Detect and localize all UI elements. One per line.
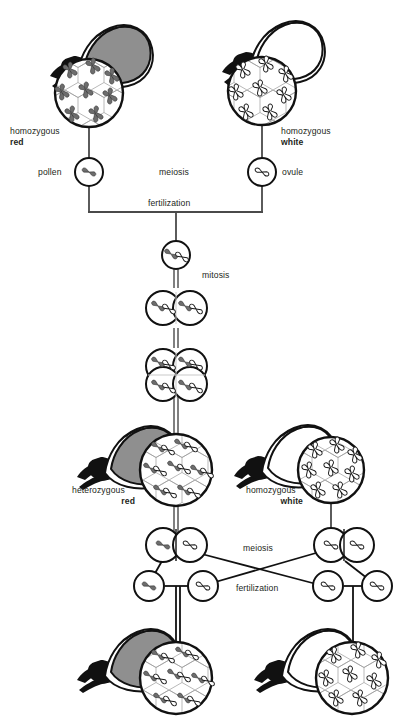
genetics-cross-diagram: homozygous red homozygous white pollen o… bbox=[0, 0, 400, 718]
label-meiosis-top: meiosis bbox=[159, 167, 189, 178]
tissue-disc-f2-red bbox=[140, 642, 215, 714]
diagram-canvas bbox=[0, 0, 400, 718]
f2-red-plant bbox=[77, 629, 215, 714]
meiosis-pair-right bbox=[314, 528, 374, 562]
label-f1-right-line1: homozygous bbox=[246, 485, 296, 496]
label-fertilization-top: fertilization bbox=[148, 198, 190, 209]
f2-white-plant bbox=[254, 629, 388, 714]
parent-red-plant bbox=[50, 25, 153, 127]
zygote-cell bbox=[162, 241, 190, 269]
label-parent-right-line1: homozygous bbox=[281, 126, 331, 137]
label-pollen: pollen bbox=[38, 167, 62, 178]
gamete-pollen bbox=[75, 158, 103, 186]
tissue-disc-parent-white bbox=[228, 55, 296, 125]
label-mitosis: mitosis bbox=[202, 270, 229, 281]
gamete-ovule bbox=[248, 158, 276, 186]
four-cell-stage bbox=[146, 349, 207, 401]
label-ovule: ovule bbox=[282, 167, 303, 178]
tissue-disc-f1-red bbox=[140, 434, 214, 506]
two-cell-stage bbox=[146, 291, 207, 325]
tissue-disc-parent-red bbox=[54, 57, 123, 127]
meiosis-pair-left bbox=[146, 528, 207, 562]
label-meiosis-bottom: meiosis bbox=[243, 543, 273, 554]
tissue-disc-f1-white bbox=[298, 436, 364, 503]
label-parent-left-line2: red bbox=[10, 137, 74, 148]
tissue-disc-f2-white bbox=[316, 641, 388, 714]
label-f1-left-line1: heterozygous bbox=[72, 485, 125, 496]
label-f1-left-line2: red bbox=[72, 496, 135, 507]
label-fertilization-bottom: fertilization bbox=[236, 583, 278, 594]
label-f1-right-line2: white bbox=[246, 496, 303, 507]
parent-white-plant bbox=[222, 21, 325, 125]
label-parent-right-line2: white bbox=[281, 137, 303, 148]
label-parent-left-line1: homozygous bbox=[10, 126, 60, 137]
